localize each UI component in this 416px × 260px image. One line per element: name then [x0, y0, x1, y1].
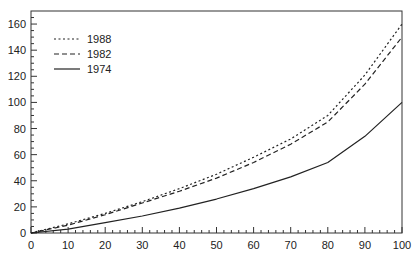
- y-tick-label: 20: [14, 201, 26, 213]
- y-tick-label: 0: [20, 227, 26, 239]
- y-tick-label: 120: [8, 70, 26, 82]
- legend-label-1988: 1988: [87, 33, 111, 45]
- x-tick-label: 100: [393, 239, 411, 251]
- y-tick-label: 80: [14, 123, 26, 135]
- x-tick-label: 20: [99, 239, 111, 251]
- x-tick-label: 30: [136, 239, 148, 251]
- y-tick-label: 40: [14, 175, 26, 187]
- x-tick-label: 10: [62, 239, 74, 251]
- x-axis: 0102030405060708090100: [28, 227, 411, 251]
- x-tick-label: 40: [173, 239, 185, 251]
- series-line-1974: [31, 102, 402, 233]
- line-chart: 0102030405060708090100 02040608010012014…: [0, 0, 416, 260]
- y-tick-label: 140: [8, 44, 26, 56]
- y-tick-label: 160: [8, 18, 26, 30]
- legend-label-1982: 1982: [87, 48, 111, 60]
- x-tick-label: 90: [359, 239, 371, 251]
- y-axis: 020406080100120140160: [8, 18, 37, 239]
- x-tick-label: 60: [247, 239, 259, 251]
- x-tick-label: 50: [210, 239, 222, 251]
- y-tick-label: 60: [14, 149, 26, 161]
- legend: 198819821974: [54, 33, 111, 75]
- legend-label-1974: 1974: [87, 63, 111, 75]
- y-tick-label: 100: [8, 96, 26, 108]
- x-tick-label: 0: [28, 239, 34, 251]
- x-tick-label: 80: [322, 239, 334, 251]
- x-tick-label: 70: [285, 239, 297, 251]
